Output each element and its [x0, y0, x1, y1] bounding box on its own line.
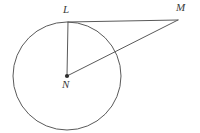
segment-NL: [67, 22, 68, 76]
vertex-label-N: N: [62, 79, 69, 90]
segment-LM: [68, 20, 178, 22]
geometry-figure: L M N: [0, 0, 200, 133]
segment-NM: [67, 20, 178, 76]
vertex-label-L: L: [63, 4, 69, 15]
geometry-canvas: [0, 0, 200, 133]
vertex-label-M: M: [176, 2, 185, 13]
